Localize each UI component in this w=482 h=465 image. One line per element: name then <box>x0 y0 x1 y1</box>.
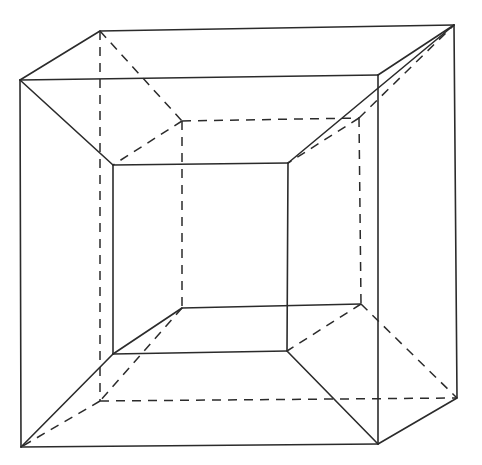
visible-edge-O_fbr-I_fbr <box>287 351 378 444</box>
visible-edge-I_ftl-I_ftr <box>113 163 288 165</box>
hidden-edge-I_btr-I_ftr <box>288 118 359 163</box>
hidden-edge-I_btr-O_btr <box>359 25 454 118</box>
hidden-edge-I_bbr-I_fbr <box>287 304 361 351</box>
visible-edge-O_btr-O_ftr <box>378 25 454 75</box>
visible-edge-I_ftr-I_fbr <box>287 163 288 351</box>
hidden-edge-I_btl-I_btr <box>182 118 359 121</box>
hidden-edge-I_btr-I_bbr <box>359 118 361 304</box>
visible-edge-O_ftl-O_ftr <box>20 75 378 80</box>
visible-edge-O_ftl-O_btl <box>20 31 100 80</box>
visible-edge-O_fbl-O_ftl <box>20 80 21 447</box>
visible-edge-O_bbr-O_fbr <box>378 398 457 444</box>
visible-edge-O_btr-I_ftr <box>288 25 454 163</box>
visible-edge-O_btl-O_btr <box>100 25 454 31</box>
visible-edge-O_fbr-O_fbl <box>21 444 378 447</box>
hidden-edge-I_btl-I_ftl <box>113 121 182 165</box>
hidden-edge-O_btl-I_btl <box>100 31 182 121</box>
visible-edge-I_bbl-I_bbr <box>182 304 361 308</box>
cube-wireframe-svg <box>0 0 482 465</box>
visible-edge-O_fbl-I_fbl <box>21 354 113 447</box>
hollow-cube-diagram <box>0 0 482 465</box>
visible-edge-O_btr-O_bbr <box>454 25 457 398</box>
hidden-edge-I_bbr-O_bbr <box>361 304 457 398</box>
hidden-edges <box>21 25 457 447</box>
hidden-edge-O_bbl-O_bbr <box>100 398 457 401</box>
visible-edge-O_ftl-I_ftl <box>20 80 113 165</box>
visible-edge-I_fbr-I_fbl <box>113 351 287 354</box>
visible-edges <box>20 25 457 447</box>
